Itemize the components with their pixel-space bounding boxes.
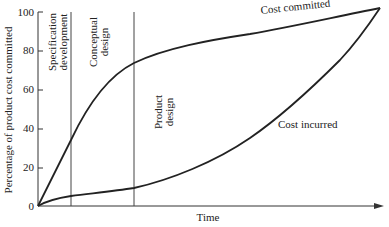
x-axis-arrow-icon <box>374 203 384 209</box>
y-tick-labels: 0 20 40 60 80 100 <box>18 6 35 212</box>
cost-committed-label: Cost committed <box>260 0 331 16</box>
y-ticks <box>38 12 43 168</box>
y-tick-80: 80 <box>23 44 35 56</box>
cost-commitment-chart: 0 20 40 60 80 100 Percentage of product … <box>0 0 389 227</box>
x-axis-label: Time <box>197 211 220 223</box>
phase-label-conceptual-2: design <box>98 27 110 56</box>
y-tick-100: 100 <box>18 6 35 18</box>
phase-label-specification-2: development <box>57 14 69 71</box>
y-tick-0: 0 <box>29 200 35 212</box>
y-tick-60: 60 <box>23 83 35 95</box>
phase-label-product-2: design <box>163 97 175 126</box>
y-axis-label: Percentage of product cost committed <box>2 26 14 193</box>
cost-incurred-label: Cost incurred <box>278 118 338 130</box>
y-tick-40: 40 <box>23 122 35 134</box>
y-tick-20: 20 <box>23 161 35 173</box>
